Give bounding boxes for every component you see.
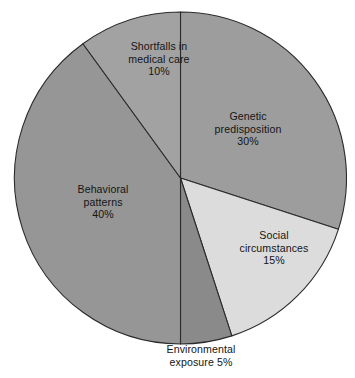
pie-slices-group	[14, 12, 346, 344]
pie-chart: Genetic predisposition 30% Social circum…	[0, 0, 355, 378]
pie-chart-canvas	[0, 0, 355, 378]
